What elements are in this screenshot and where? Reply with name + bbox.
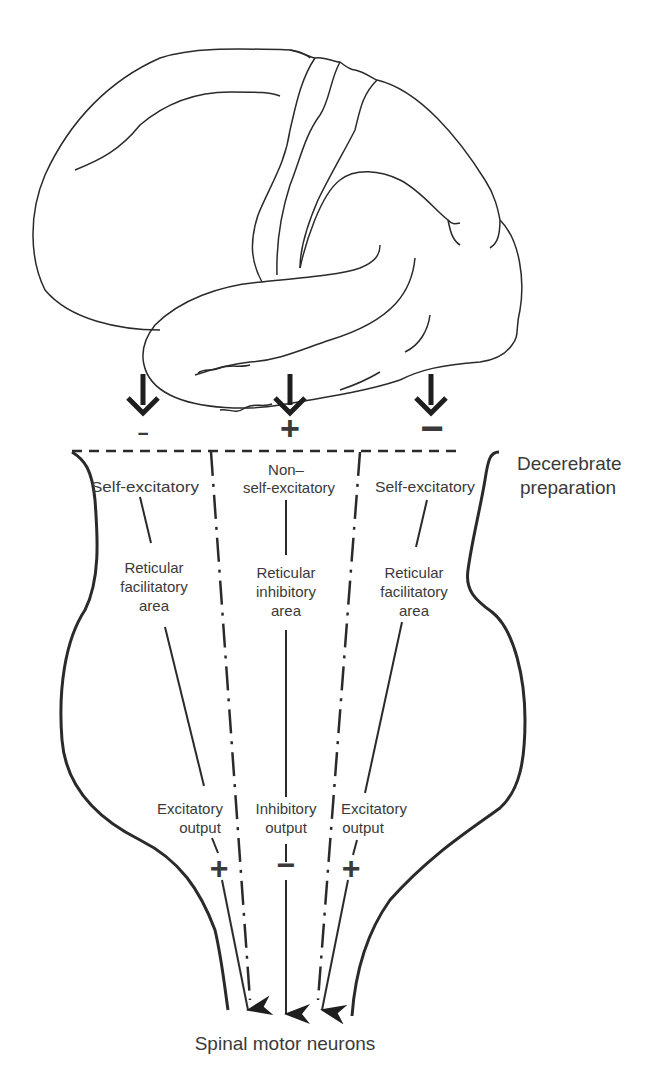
- cortical-input-middle: +: [275, 374, 305, 447]
- column-left-output-line1: Excitatory: [157, 800, 223, 817]
- column-middle-output-line2: output: [265, 819, 308, 836]
- column-left-area-line3: area: [139, 597, 170, 614]
- pathway-right-upper: [416, 500, 427, 547]
- brain-outline: [33, 49, 522, 411]
- section-label-line1: Decerebrate: [517, 453, 622, 474]
- column-middle-top-label-line2: self-excitatory: [243, 479, 335, 496]
- column-middle-top-label-line1: Non–: [268, 461, 305, 478]
- column-middle-area-line2: inhibitory: [256, 583, 317, 600]
- column-left-top-label: Self-excitatory: [91, 478, 200, 495]
- column-middle-area-line1: Reticular: [256, 564, 315, 581]
- pathway-left-lower: [165, 627, 204, 786]
- column-right-top-label: Self-excitatory: [375, 478, 476, 495]
- column-right-output-sign: +: [342, 850, 361, 886]
- input-sign-left: −: [137, 423, 148, 444]
- column-left-output-sign: +: [210, 850, 229, 886]
- column-left-area-line1: Reticular: [124, 559, 183, 576]
- pathway-left-upper: [140, 497, 151, 543]
- column-right-area-line3: area: [399, 602, 430, 619]
- pathway-right-lower: [365, 622, 402, 793]
- column-right-area-line1: Reticular: [384, 564, 443, 581]
- column-right-area-line2: facilitatory: [380, 583, 448, 600]
- column-middle-output-sign: −: [277, 847, 296, 883]
- column-left-area-line2: facilitatory: [120, 578, 188, 595]
- column-right-output-line1: Excitatory: [341, 800, 407, 817]
- cortical-input-left: −: [128, 374, 158, 444]
- diagram-canvas: − + − Decerebrate preparation Self-excit…: [0, 0, 671, 1066]
- column-middle-area-line3: area: [271, 602, 302, 619]
- section-label-line2: preparation: [520, 477, 616, 498]
- input-sign-middle: +: [280, 409, 300, 447]
- input-sign-right: −: [420, 406, 443, 450]
- column-right-output-line2: output: [342, 819, 385, 836]
- column-left-output-line2: output: [179, 819, 222, 836]
- cortical-input-right: −: [416, 374, 446, 450]
- target-label: Spinal motor neurons: [195, 1033, 376, 1054]
- brainstem-outline: [61, 452, 525, 1016]
- column-divider-right: [318, 452, 360, 1000]
- column-middle-output-line1: Inhibitory: [256, 800, 317, 817]
